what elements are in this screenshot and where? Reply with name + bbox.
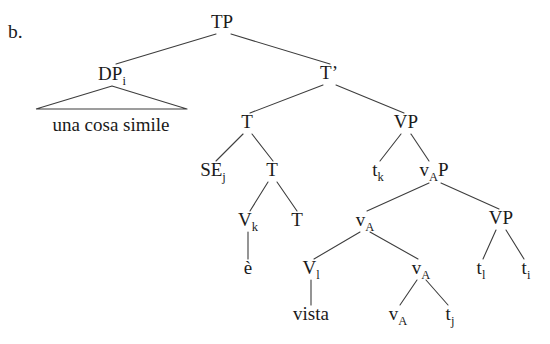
node-subscript-vAP: A [429,170,438,184]
branch-vA2-to-tj [426,280,448,305]
branch-TP-to-Tbar [231,34,330,64]
node-base-VP1: VP [394,111,418,132]
node-tk: tk [372,159,384,184]
syntax-tree-figure: una cosa simile TPDPiT’TVPSEjTtkvAPVkTvA… [0,0,550,344]
item-letter: b. [8,21,23,42]
node-base-e: è [244,257,252,278]
node-subscript-ti: i [527,268,531,282]
branch-VP1-to-tk [380,134,401,161]
node-subscript-Vl: l [316,268,320,282]
branch-vA1-to-Vl [314,232,360,259]
node-base-TP: TP [211,11,233,32]
node-base-SEj: SE [200,159,222,180]
branch-Tbar-to-T1 [250,85,323,113]
branch-vAP-to-vA1 [367,183,429,211]
branch-T1-to-SEj [216,134,243,161]
node-subscript-tj: j [450,314,454,328]
node-tl: tl [477,257,486,282]
node-DPi: DPi [98,63,126,88]
branch-vA1-to-vA2 [370,232,418,259]
branch-VP2-to-tl [483,230,496,259]
syntax-tree-svg: una cosa simile TPDPiT’TVPSEjTtkvAPVkTvA… [0,0,550,344]
node-base-Vk: V [238,209,252,230]
tree-node-labels: TPDPiT’TVPSEjTtkvAPVkTvAVPèVlvAtltivista… [98,11,531,328]
node-TP: TP [211,11,233,32]
node-base-vista: vista [293,303,329,324]
node-subscript-SEj: j [221,170,225,184]
node-subscript-vA2: A [421,268,430,282]
node-base-T2: T [266,159,278,180]
node-suffix-vAP: P [438,159,449,180]
node-Vl: Vl [302,257,320,282]
node-base-T3: T [291,209,303,230]
node-T1: T [241,111,253,132]
node-vA3: vA [389,303,408,328]
dp-triangle-outline [36,86,187,109]
triangle-span-text: una cosa simile [52,114,169,135]
node-subscript-tl: l [482,268,486,282]
branch-VP2-to-ti [506,230,524,259]
branch-T2-to-Vk [250,182,268,211]
node-base-Tbar: T’ [320,62,338,83]
node-SEj: SEj [200,159,226,184]
node-subscript-tk: k [378,170,385,184]
node-base-vA1: v [356,209,366,230]
node-base-Vl: V [302,257,316,278]
node-T2: T [266,159,278,180]
node-base-vA2: v [412,257,422,278]
node-base-vA3: v [389,303,399,324]
node-vAP: vAP [419,159,448,184]
branch-Tbar-to-VP1 [336,85,404,113]
node-T3: T [291,209,303,230]
node-tj: tj [446,303,455,328]
node-base-DPi: DP [98,63,122,84]
branch-vAP-to-VP2 [441,183,499,209]
node-subscript-vA3: A [398,314,407,328]
item-letter-label: b. [8,21,23,42]
node-subscript-Vk: k [252,220,259,234]
node-subscript-DPi: i [122,74,126,88]
branch-TP-to-DPi [116,34,216,64]
node-subscript-vA1: A [365,220,374,234]
node-base-vAP: v [419,159,429,180]
node-Tbar: T’ [320,62,338,83]
branch-T2-to-T3 [277,182,297,211]
node-VP2: VP [489,207,513,228]
node-base-T1: T [241,111,253,132]
node-vA2: vA [412,257,431,282]
node-ti: ti [522,257,531,282]
node-VP1: VP [394,111,418,132]
branch-VP1-to-vAP [411,134,429,161]
node-vista: vista [293,303,329,324]
node-base-VP2: VP [489,207,513,228]
branch-T1-to-T2 [252,134,273,161]
node-Vk: Vk [238,209,259,234]
node-e: è [244,257,252,278]
branch-vA2-to-vA3 [400,280,417,305]
node-vA1: vA [356,209,375,234]
dp-triangle: una cosa simile [36,86,187,135]
